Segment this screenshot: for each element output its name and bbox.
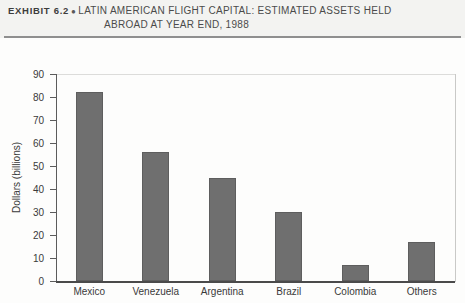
header-divider — [4, 36, 461, 38]
x-axis-line — [56, 281, 455, 283]
y-axis-tick-label: 30 — [4, 207, 44, 218]
y-axis-tick-label: 20 — [4, 230, 44, 241]
bar — [76, 92, 103, 281]
y-axis-tick — [50, 281, 56, 282]
y-axis-tick-label: 60 — [4, 138, 44, 149]
y-axis-tick — [50, 258, 56, 259]
bar — [342, 265, 369, 281]
y-axis-tick-label: 70 — [4, 115, 44, 126]
y-axis-tick — [50, 120, 56, 121]
y-axis-tick-label: 80 — [4, 92, 44, 103]
y-axis-tick-label: 90 — [4, 69, 44, 80]
exhibit-number-label: EXHIBIT 6.2 — [8, 5, 69, 16]
y-axis-tick — [50, 143, 56, 144]
y-axis-tick-label: 40 — [4, 184, 44, 195]
y-axis-tick — [50, 212, 56, 213]
exhibit-title-line-1: EXHIBIT 6.2●LATIN AMERICAN FLIGHT CAPITA… — [8, 5, 459, 16]
exhibit-header: EXHIBIT 6.2●LATIN AMERICAN FLIGHT CAPITA… — [0, 0, 465, 38]
bar — [209, 178, 236, 282]
y-axis-tick-label: 10 — [4, 253, 44, 264]
bar — [142, 152, 169, 281]
bar-chart: Dollars (billions) 0102030405060708090 M… — [0, 40, 465, 303]
exhibit-title-text-1: LATIN AMERICAN FLIGHT CAPITAL: ESTIMATED… — [78, 5, 391, 16]
y-axis-tick-label: 50 — [4, 161, 44, 172]
exhibit-title-line-2: ABROAD AT YEAR END, 1988 — [104, 19, 459, 30]
exhibit-title-text-2: ABROAD AT YEAR END, 1988 — [104, 19, 249, 30]
y-axis-tick — [50, 166, 56, 167]
y-axis-tick — [50, 189, 56, 190]
x-axis-category-label: Others — [407, 286, 437, 297]
plot-border-right — [455, 74, 456, 282]
bar — [275, 212, 302, 281]
x-axis-category-label: Argentina — [201, 286, 244, 297]
plot-border-top — [56, 74, 455, 75]
x-axis-category-label: Colombia — [334, 286, 376, 297]
y-axis-tick — [50, 235, 56, 236]
bar — [408, 242, 435, 281]
y-axis-title: Dollars (billions) — [11, 118, 22, 238]
y-axis-tick — [50, 74, 56, 75]
bullet-separator-icon: ● — [69, 7, 78, 16]
x-axis-category-label: Mexico — [73, 286, 105, 297]
y-axis-tick-label: 0 — [4, 276, 44, 287]
x-axis-category-label: Venezuela — [132, 286, 179, 297]
y-axis-line — [56, 74, 57, 282]
x-axis-category-label: Brazil — [276, 286, 301, 297]
y-axis-tick — [50, 97, 56, 98]
